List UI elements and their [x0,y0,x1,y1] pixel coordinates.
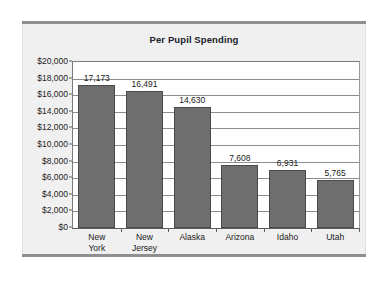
y-axis-tick [69,61,72,62]
panel-right-edge [365,24,366,254]
y-axis-tick-label: $12,000 [22,122,68,132]
bar [317,180,354,228]
y-axis-tick-label: $8,000 [22,156,68,166]
bar [78,85,115,228]
y-axis-tick [69,227,72,228]
panel-top-rule [22,21,366,24]
bar [126,91,163,228]
y-axis-tick [69,160,72,161]
y-axis-tick-label: $0 [22,222,68,232]
y-axis-labels: $0$2,000$4,000$6,000$8,000$10,000$12,000… [22,61,68,227]
y-axis-tick [69,110,72,111]
y-axis-tick [69,210,72,211]
bar-value-label: 5,765 [305,168,365,178]
chart-figure: Per Pupil Spending $0$2,000$4,000$6,000$… [0,0,388,286]
x-axis-tick-label: Utah [305,232,365,243]
x-axis-tick-label-line: Utah [305,232,365,243]
chart-title: Per Pupil Spending [22,34,366,45]
bar-value-label: 14,630 [162,95,222,105]
bar-value-label: 6,931 [258,158,318,168]
bar [221,165,258,228]
y-axis-tick-label: $16,000 [22,89,68,99]
x-axis-tick-label-line: Jersey [115,243,175,254]
y-axis-tick [69,94,72,95]
x-axis-labels: NewYorkNewJerseyAlaskaArizonaIdahoUtah [73,232,359,258]
y-axis-tick [69,177,72,178]
y-axis-tick [69,193,72,194]
y-axis-tick-label: $2,000 [22,205,68,215]
bar [174,107,211,228]
bar-series: 17,17316,49114,6307,6086,9315,765 [73,62,359,228]
y-axis-tick-label: $18,000 [22,73,68,83]
y-axis-tick-label: $10,000 [22,139,68,149]
y-axis-tick [69,127,72,128]
bar-value-label: 16,491 [115,79,175,89]
bar [269,170,306,228]
y-axis-tick-label: $14,000 [22,106,68,116]
y-axis-tick-label: $6,000 [22,172,68,182]
y-axis-tick-label: $20,000 [22,56,68,66]
y-axis-tick [69,144,72,145]
y-axis-tick-label: $4,000 [22,189,68,199]
